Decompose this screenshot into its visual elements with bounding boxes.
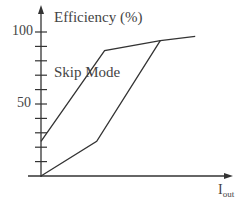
y-tick-label-100: 100	[12, 23, 33, 39]
x-axis-label-sub: out	[223, 189, 235, 199]
x-axis-arrow-icon	[224, 173, 233, 179]
x-axis-label: Iout	[218, 182, 234, 199]
skip-mode-curve	[41, 36, 195, 141]
y-axis	[38, 5, 44, 177]
y-axis-arrow-icon	[38, 5, 44, 14]
chart-title: Efficiency (%)	[54, 9, 142, 26]
y-tick-label-50: 50	[17, 95, 31, 111]
x-axis	[28, 173, 233, 179]
efficiency-chart	[0, 0, 245, 207]
skip-mode-annotation: Skip Mode	[54, 64, 120, 81]
non-skip-mode-curve	[41, 41, 160, 176]
